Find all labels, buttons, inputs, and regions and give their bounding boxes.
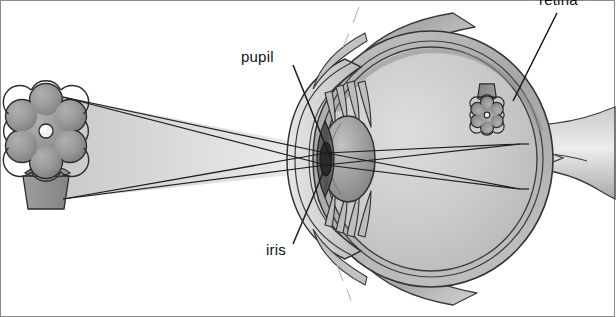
label-iris: iris	[266, 241, 286, 258]
label-retina: retina	[539, 0, 578, 8]
leader-line-retina	[513, 13, 557, 101]
label-pupil: pupil	[241, 48, 274, 65]
eye-diagram-canvas	[1, 1, 616, 317]
